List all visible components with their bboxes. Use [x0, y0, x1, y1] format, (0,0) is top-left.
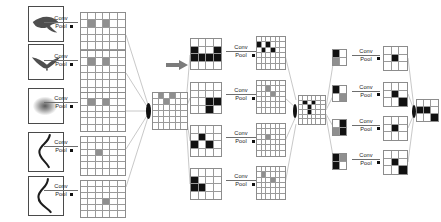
- grid-cell: [110, 20, 117, 27]
- grid-cell: [96, 73, 103, 80]
- grid-cell: [118, 20, 125, 27]
- output-feature-map[interactable]: [416, 99, 439, 122]
- grid-cell: [191, 141, 199, 149]
- grid-cell: [206, 47, 214, 55]
- conv-label: Conv: [352, 85, 380, 91]
- grid-cell: [199, 106, 207, 114]
- grid-cell: [431, 100, 438, 107]
- grid-cell: [96, 20, 103, 27]
- tile-2[interactable]: [332, 85, 347, 102]
- grid-cell: [399, 98, 407, 106]
- aggregation-node-2[interactable]: [293, 104, 297, 118]
- grid-cell: [206, 54, 214, 62]
- feature-map-14[interactable]: [383, 46, 408, 71]
- grid-cell: [81, 35, 88, 42]
- feature-map-16[interactable]: [383, 116, 408, 141]
- grid-cell: [118, 42, 125, 49]
- grid-cell: [191, 62, 199, 70]
- grid-cell: [103, 73, 110, 80]
- conv-label: Conv: [226, 131, 256, 137]
- pooled-map-right[interactable]: [298, 95, 326, 125]
- arrow-head-7: [252, 97, 255, 100]
- grid-cell: [206, 91, 214, 99]
- conv-label: Conv: [226, 88, 256, 94]
- grid-cell: [199, 54, 207, 62]
- aggregation-node-1[interactable]: [146, 103, 151, 119]
- grid-cell: [88, 66, 95, 73]
- grid-cell: [118, 211, 125, 217]
- grid-cell: [199, 91, 207, 99]
- flow-arrow-icon: [166, 56, 188, 66]
- grid-cell: [384, 47, 392, 55]
- grid-cell: [81, 51, 88, 58]
- grid-cell: [191, 177, 199, 185]
- grid-cell: [103, 42, 110, 49]
- grid-cell: [191, 91, 199, 99]
- grid-cell: [103, 211, 110, 217]
- grid-cell: [118, 80, 125, 87]
- grid-cell: [199, 192, 207, 200]
- grid-cell: [206, 134, 214, 142]
- tile-4[interactable]: [332, 153, 347, 170]
- feature-map-5[interactable]: [80, 180, 126, 218]
- feature-map-17[interactable]: [383, 150, 408, 175]
- grid-cell: [214, 192, 222, 200]
- tile-3[interactable]: [332, 119, 347, 136]
- grid-cell: [399, 125, 407, 133]
- grid-cell: [340, 58, 347, 66]
- grid-cell: [206, 192, 214, 200]
- feature-map-15[interactable]: [383, 82, 408, 107]
- grid-cell: [81, 169, 88, 175]
- conv-pool-label-10: Conv Pool: [352, 49, 380, 63]
- feature-map-2[interactable]: [80, 50, 126, 96]
- grid-cell: [199, 149, 207, 157]
- grid-cell: [81, 42, 88, 49]
- grid-cell: [191, 47, 199, 55]
- conv-label: Conv: [44, 184, 78, 190]
- grid-cell: [110, 211, 117, 217]
- grid-cell: [96, 58, 103, 65]
- conv-pool-label-12: Conv Pool: [352, 119, 380, 133]
- grid-cell: [199, 184, 207, 192]
- grid-cell: [340, 128, 347, 136]
- arrow-head-9: [252, 183, 255, 186]
- feature-map-13[interactable]: [256, 166, 286, 200]
- grid-cell: [191, 126, 199, 134]
- feature-map-6[interactable]: [190, 38, 222, 70]
- grid-cell: [96, 211, 103, 217]
- grid-cell: [384, 125, 392, 133]
- grid-cell: [199, 98, 207, 106]
- grid-cell: [399, 132, 407, 140]
- grid-cell: [96, 42, 103, 49]
- pooled-map-center[interactable]: [152, 92, 188, 130]
- grid-cell: [384, 132, 392, 140]
- tile-1[interactable]: [332, 49, 347, 66]
- feature-map-4[interactable]: [80, 136, 126, 176]
- grid-cell: [88, 80, 95, 87]
- grid-cell: [199, 47, 207, 55]
- feature-map-3[interactable]: [80, 92, 126, 132]
- diagram-canvas: Conv Pool Conv Pool Conv Pool Conv Pool …: [0, 0, 441, 222]
- feature-map-11[interactable]: [256, 80, 286, 114]
- feature-map-7[interactable]: [190, 82, 222, 114]
- feature-map-8[interactable]: [190, 125, 222, 157]
- grid-cell: [214, 149, 222, 157]
- arrow-head-4: [70, 149, 73, 152]
- feature-map-12[interactable]: [256, 123, 286, 157]
- feature-map-10[interactable]: [256, 36, 286, 70]
- grid-cell: [199, 83, 207, 91]
- grid-cell: [214, 169, 222, 177]
- grid-cell: [399, 83, 407, 91]
- grid-cell: [399, 151, 407, 159]
- grid-cell: [81, 20, 88, 27]
- grid-cell: [81, 211, 88, 217]
- grid-cell: [214, 177, 222, 185]
- grid-cell: [88, 73, 95, 80]
- grid-cell: [199, 177, 207, 185]
- grid-cell: [110, 80, 117, 87]
- conv-label: Conv: [352, 49, 380, 55]
- feature-map-9[interactable]: [190, 168, 222, 200]
- grid-cell: [88, 35, 95, 42]
- grid-cell: [96, 35, 103, 42]
- grid-cell: [392, 98, 400, 106]
